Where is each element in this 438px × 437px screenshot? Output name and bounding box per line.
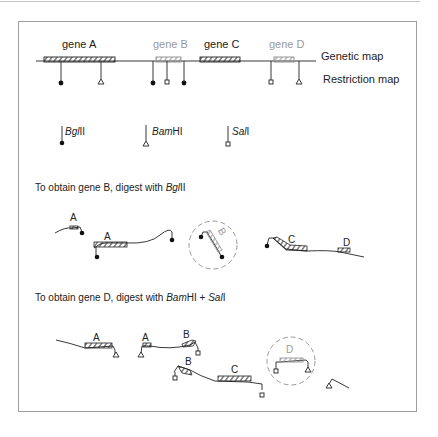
fragment-cd: C D bbox=[265, 234, 364, 257]
gene-a-box bbox=[44, 57, 115, 62]
genetic-map: gene A gene B gene C gene D Genetic map … bbox=[36, 38, 399, 85]
selected-fragment-circle bbox=[189, 221, 237, 269]
bamhi-site-icon bbox=[296, 79, 302, 84]
fragment-ab: A B bbox=[138, 329, 200, 357]
gene-c-box bbox=[200, 57, 240, 62]
gene-b-label: gene B bbox=[153, 38, 188, 50]
svg-text:D: D bbox=[343, 237, 350, 248]
svg-text:B: B bbox=[183, 329, 190, 340]
gene-a-label: gene A bbox=[62, 38, 97, 50]
fragment-bc: B C bbox=[173, 356, 264, 397]
bglii-site-icon bbox=[59, 81, 64, 86]
bamhi-site-icon bbox=[98, 79, 104, 84]
svg-text:B: B bbox=[216, 226, 229, 238]
fragment-b-isolated: B bbox=[189, 221, 237, 269]
svg-text:C: C bbox=[288, 234, 295, 245]
svg-text:B: B bbox=[185, 356, 192, 367]
gene-cloning-diagram: gene A gene B gene C gene D Genetic map … bbox=[0, 0, 438, 437]
sali-site-icon bbox=[165, 80, 169, 84]
svg-text:A: A bbox=[70, 212, 77, 223]
svg-text:BglII: BglII bbox=[65, 126, 85, 137]
gene-d-label: gene D bbox=[269, 38, 305, 50]
svg-text:BamHI: BamHI bbox=[152, 126, 183, 137]
enzyme-legend: BglII BamHI SalI bbox=[60, 125, 250, 146]
svg-text:A: A bbox=[93, 332, 100, 343]
fragment-a-long: A bbox=[94, 230, 174, 259]
fragment-a-left: A bbox=[56, 332, 119, 357]
fragment-right-end bbox=[326, 379, 349, 388]
svg-text:A: A bbox=[104, 231, 111, 242]
legend-sali: SalI bbox=[226, 126, 249, 146]
restriction-map-label: Restriction map bbox=[323, 73, 399, 85]
section1-caption: To obtain gene B, digest with BglII bbox=[35, 182, 186, 193]
fragment-a-small: A bbox=[55, 212, 84, 235]
gene-c-label: gene C bbox=[204, 38, 240, 50]
filled-circle-icon bbox=[60, 141, 65, 146]
svg-text:SalI: SalI bbox=[232, 126, 249, 137]
open-triangle-icon bbox=[143, 141, 149, 146]
genetic-map-label: Genetic map bbox=[321, 50, 383, 62]
open-square-icon bbox=[226, 142, 230, 146]
svg-text:D: D bbox=[286, 344, 293, 355]
restriction-sites bbox=[59, 61, 302, 85]
svg-text:C: C bbox=[231, 364, 238, 375]
sali-site-icon bbox=[269, 80, 273, 84]
bglii-site-icon bbox=[151, 81, 156, 86]
bglii-site-icon bbox=[182, 81, 187, 86]
section2-caption: To obtain gene D, digest with BamHI + Sa… bbox=[35, 292, 225, 303]
gene-b-box bbox=[156, 57, 181, 62]
legend-bglii: BglII bbox=[60, 126, 85, 145]
legend-bamhi: BamHI bbox=[143, 125, 183, 146]
bamhi-sali-fragments: A A B B C D bbox=[56, 329, 349, 397]
bglii-fragments: A A B C D bbox=[55, 212, 364, 269]
svg-text:A: A bbox=[142, 332, 149, 343]
fragment-d-isolated: D bbox=[267, 337, 315, 385]
gene-d-box bbox=[274, 57, 294, 62]
